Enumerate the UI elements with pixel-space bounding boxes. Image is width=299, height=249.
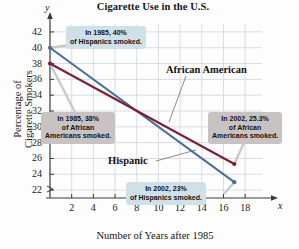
- callout-line: In 2002, 23%: [130, 185, 202, 194]
- callout-line: of Hispanics smoked.: [130, 194, 202, 203]
- series-label-hispanic: Hispanic: [108, 155, 148, 166]
- callout-line: of Hispanics smoked.: [70, 38, 142, 47]
- y-axis-title: Percentage of Cigarette Smokers: [12, 39, 34, 179]
- y-axis-letter: y: [45, 2, 49, 13]
- callout-line: of African: [45, 124, 111, 133]
- y-tick-label: 42: [20, 26, 42, 37]
- x-tick-label: 6: [106, 202, 124, 213]
- y-tick-label: 22: [20, 184, 42, 195]
- series-label-african-american: African American: [166, 64, 247, 75]
- callout-hispanic-1985: In 1985, 40% of Hispanics smoked.: [66, 26, 146, 49]
- y-axis-title-line2: Cigarette Smokers: [23, 70, 34, 148]
- x-tick-label: 2: [63, 202, 81, 213]
- chart-figure: Cigarette Use in the U.S. y x 2224262830…: [0, 0, 299, 249]
- y-axis-title-line1: Percentage of: [12, 80, 23, 137]
- x-tick-label: 4: [84, 202, 102, 213]
- callout-line: of African: [212, 124, 278, 133]
- chart-title: Cigarette Use in the U.S.: [58, 1, 248, 12]
- callout-line: Americans smoked.: [212, 132, 278, 141]
- callout-hispanic-2002: In 2002, 23% of Hispanics smoked.: [126, 182, 206, 205]
- x-tick-label: 16: [214, 202, 232, 213]
- callout-line: In 1985, 40%: [70, 29, 142, 38]
- x-axis-letter: x: [278, 200, 282, 211]
- callout-line: In 2002, 25.3%: [212, 115, 278, 124]
- x-axis-title: Number of Years after 1985: [40, 230, 270, 241]
- callout-line: In 1985, 38%: [45, 115, 111, 124]
- x-tick-label: 18: [236, 202, 254, 213]
- callout-african-american-2002: In 2002, 25.3% of African Americans smok…: [208, 112, 282, 144]
- callout-african-american-1985: In 1985, 38% of African Americans smoked…: [41, 112, 115, 144]
- callout-line: Americans smoked.: [45, 132, 111, 141]
